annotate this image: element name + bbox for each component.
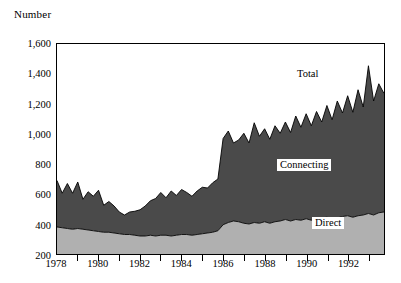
x-tick-label: 1982 bbox=[129, 258, 150, 269]
x-tick-label: 1990 bbox=[296, 258, 317, 269]
x-axis-labels: 19781980198219841986198819901992 bbox=[0, 258, 401, 278]
y-tick-label: 1,000 bbox=[27, 128, 51, 139]
y-tick-label: 1,600 bbox=[27, 38, 51, 49]
y-axis-title: Number bbox=[14, 8, 51, 20]
x-tick-label: 1992 bbox=[338, 258, 359, 269]
y-tick-label: 800 bbox=[35, 159, 51, 170]
x-tick-label: 1984 bbox=[171, 258, 192, 269]
chart-root: Number 2004006008001,0001,2001,4001,600 … bbox=[0, 0, 401, 283]
y-tick-label: 1,200 bbox=[27, 98, 51, 109]
y-tick-label: 400 bbox=[35, 219, 51, 230]
x-tick-label: 1986 bbox=[213, 258, 234, 269]
series-label-direct: Direct bbox=[312, 217, 344, 229]
connecting-area bbox=[57, 66, 384, 236]
series-label-total: Total bbox=[297, 68, 318, 80]
y-tick-label: 600 bbox=[35, 189, 51, 200]
x-tick-label: 1978 bbox=[46, 258, 67, 269]
series-label-connecting: Connecting bbox=[277, 159, 331, 171]
x-tick-label: 1988 bbox=[254, 258, 275, 269]
y-tick-label: 1,400 bbox=[27, 68, 51, 79]
y-axis-labels: 2004006008001,0001,2001,4001,600 bbox=[0, 43, 51, 255]
x-tick-label: 1980 bbox=[87, 258, 108, 269]
